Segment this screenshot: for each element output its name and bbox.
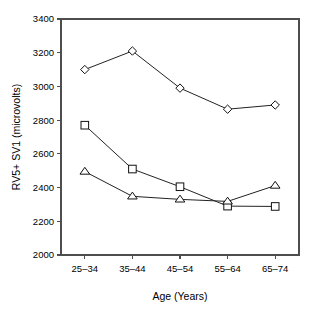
data-point-diamond xyxy=(128,47,136,55)
data-point-diamond xyxy=(81,65,89,73)
y-tick-label: 2800 xyxy=(33,115,54,126)
x-axis-ticks xyxy=(85,255,275,259)
x-tick-label: 25–34 xyxy=(72,263,98,274)
series-line xyxy=(85,125,275,206)
y-tick-label: 2000 xyxy=(33,249,54,260)
data-point-triangle xyxy=(270,181,280,188)
series-line xyxy=(85,51,275,109)
chart-figure: 20002200240026002800300032003400 25–3435… xyxy=(0,0,314,316)
series-diamond xyxy=(81,47,280,114)
data-point-triangle xyxy=(80,167,90,174)
series-layer xyxy=(80,47,280,210)
y-tick-label: 3400 xyxy=(33,13,54,24)
data-point-diamond xyxy=(271,101,279,109)
y-tick-label: 3200 xyxy=(33,47,54,58)
x-tick-label: 65–74 xyxy=(262,263,288,274)
y-axis-tick-labels: 20002200240026002800300032003400 xyxy=(33,13,54,260)
y-tick-label: 2400 xyxy=(33,182,54,193)
data-point-triangle xyxy=(128,192,138,199)
x-axis-title: Age (Years) xyxy=(152,290,207,302)
x-axis-tick-labels: 25–3435–4445–5455–6465–74 xyxy=(72,263,289,274)
x-tick-label: 35–44 xyxy=(119,263,145,274)
data-point-square xyxy=(271,203,279,211)
data-point-diamond xyxy=(223,105,231,113)
data-point-diamond xyxy=(176,84,184,92)
y-tick-label: 2200 xyxy=(33,216,54,227)
data-point-triangle xyxy=(175,195,185,202)
plot-border xyxy=(61,19,299,255)
data-point-square xyxy=(81,121,89,129)
line-chart: 20002200240026002800300032003400 25–3435… xyxy=(0,0,314,316)
x-tick-label: 55–64 xyxy=(214,263,240,274)
y-axis-title: RV5+ SV1 (microvolts) xyxy=(10,84,22,190)
y-tick-label: 2600 xyxy=(33,148,54,159)
x-tick-label: 45–54 xyxy=(167,263,193,274)
data-point-square xyxy=(129,165,137,173)
plot-frame xyxy=(61,19,299,255)
data-point-square xyxy=(176,183,184,191)
y-tick-label: 3000 xyxy=(33,81,54,92)
